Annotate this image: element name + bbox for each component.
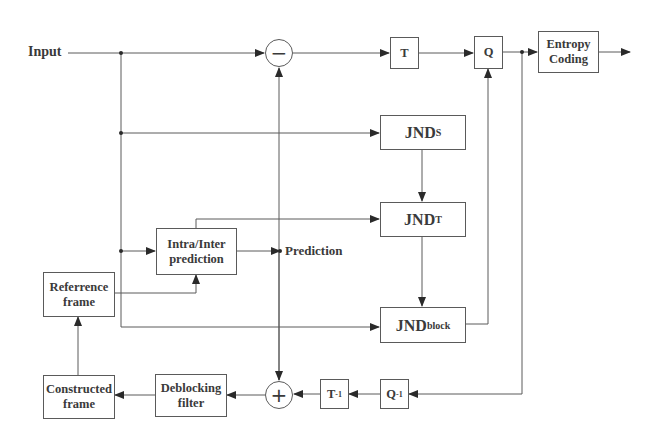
inverse-quantize-block: Q-1 <box>380 379 409 409</box>
deblocking-filter-block: Deblocking filter <box>155 374 227 417</box>
intra-line2: prediction <box>169 252 224 267</box>
quantize-block: Q <box>474 36 503 69</box>
entropy-line1: Entropy <box>546 37 590 52</box>
transform-label: T <box>400 46 408 61</box>
deblock-line1: Deblocking <box>161 381 221 396</box>
jnd-s-main: JND <box>405 125 436 140</box>
constructed-line1: Constructed <box>46 382 112 397</box>
intra-inter-prediction-block: Intra/Inter prediction <box>156 228 237 275</box>
subtract-operator: − <box>265 39 293 67</box>
constructed-frame-block: Constructed frame <box>43 375 115 419</box>
entropy-line2: Coding <box>549 52 588 67</box>
reference-frame-block: Referrence frame <box>43 272 115 317</box>
transform-block: T <box>390 37 419 69</box>
inv-quantize-sup: -1 <box>396 387 403 402</box>
jnd-s-sub: S <box>436 125 442 140</box>
deblock-line2: filter <box>178 396 204 411</box>
input-label: Input <box>28 44 61 60</box>
jnd-t-main: JND <box>404 212 435 227</box>
ref-line2: frame <box>63 295 95 310</box>
jnd-block-block: JNDblock <box>380 307 466 343</box>
add-operator: + <box>265 381 293 409</box>
jnd-s-block: JNDS <box>380 115 466 150</box>
jnd-block-sub: block <box>427 318 450 333</box>
jnd-t-sub: T <box>435 212 442 227</box>
jnd-block-main: JND <box>396 318 427 333</box>
ref-line1: Referrence <box>50 280 109 295</box>
constructed-line2: frame <box>63 397 95 412</box>
entropy-coding-block: Entropy Coding <box>538 31 599 73</box>
inverse-transform-block: T-1 <box>320 379 349 409</box>
inv-quantize-main: Q <box>386 387 396 402</box>
junction-dot <box>119 51 123 55</box>
jnd-t-block: JNDT <box>380 202 466 237</box>
prediction-label: Prediction <box>285 243 343 259</box>
inv-transform-sup: -1 <box>335 387 342 402</box>
quantize-label: Q <box>484 45 494 60</box>
intra-line1: Intra/Inter <box>167 237 225 252</box>
inv-transform-main: T <box>327 387 335 402</box>
